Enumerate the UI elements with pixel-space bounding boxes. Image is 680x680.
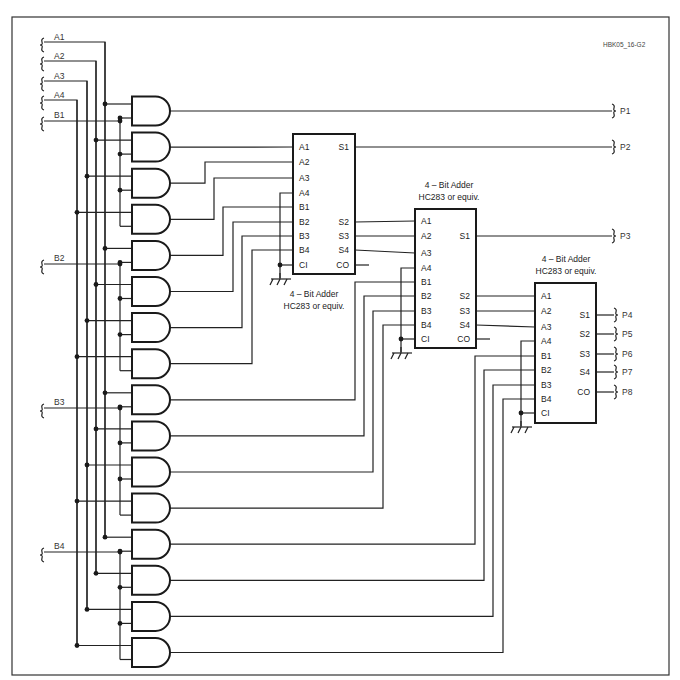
junction-dot	[118, 296, 123, 301]
input-label-b3: B3	[54, 397, 65, 407]
adder-2-pin-s2: S2	[460, 291, 471, 301]
input-label-b2: B2	[54, 253, 65, 263]
adder-2-pin-s4: S4	[460, 320, 471, 330]
junction-dot	[75, 643, 80, 648]
input-label-b1: B1	[54, 110, 65, 120]
and-gate-11	[132, 458, 170, 487]
adder-3-pin-co: CO	[577, 387, 590, 397]
wire	[170, 178, 293, 219]
ground-icon	[405, 353, 408, 359]
wire	[44, 61, 96, 573]
junction-dot	[85, 318, 90, 323]
junction-dot	[85, 607, 90, 612]
adder-1-part: HC283 or equiv.	[284, 301, 345, 311]
ground-icon	[511, 427, 514, 433]
connector-brace-icon	[612, 140, 616, 154]
connector-brace-icon	[614, 385, 618, 399]
adder-1-pin-s4: S4	[339, 245, 350, 255]
adder-1-pin-s2: S2	[339, 217, 350, 227]
output-label-p6: P6	[622, 349, 633, 359]
ground-icon	[391, 353, 394, 359]
connector-brace-icon	[40, 77, 44, 91]
and-gate-4	[132, 205, 170, 234]
ground-icon	[518, 427, 521, 433]
adder-3-part: HC283 or equiv.	[536, 266, 597, 276]
adder-2-pin-b1: B1	[421, 277, 432, 287]
wire	[170, 250, 293, 364]
ground-icon	[270, 279, 273, 285]
junction-dot	[118, 550, 123, 555]
connector-brace-icon	[40, 548, 44, 562]
adder-2-pin-s3: S3	[460, 306, 471, 316]
adder-1-pin-s3: S3	[339, 231, 350, 241]
output-label-p7: P7	[622, 367, 633, 377]
junction-dot	[103, 246, 108, 251]
junction-dot	[118, 332, 123, 337]
input-label-a4: A4	[54, 90, 65, 100]
output-label-p5: P5	[622, 329, 633, 339]
junction-dot	[85, 463, 90, 468]
schematic: HBK05_16-G2 A1A2A3A4B1B2B3B4A1A2A3A4B1B2…	[0, 0, 680, 680]
and-gate-10	[132, 421, 170, 450]
multiplier-circuit-diagram: HBK05_16-G2 A1A2A3A4B1B2B3B4A1A2A3A4B1B2…	[0, 0, 680, 680]
connector-brace-icon	[614, 308, 618, 322]
and-gate-3	[132, 169, 170, 198]
junction-dot	[103, 390, 108, 395]
input-label-a2: A2	[54, 51, 65, 61]
adder-2-pin-a1: A1	[421, 216, 432, 226]
adder-2-part: HC283 or equiv.	[419, 192, 480, 202]
adder-2-pin-b4: B4	[421, 320, 432, 330]
and-gate-9	[132, 385, 170, 414]
junction-dot	[118, 406, 123, 411]
output-label-p8: P8	[622, 387, 633, 397]
junction-dot	[94, 138, 99, 143]
input-label-a1: A1	[54, 32, 65, 42]
adder-1-pin-a2: A2	[299, 157, 310, 167]
adder-1-pin-a4: A4	[299, 188, 310, 198]
junction-dot	[75, 354, 80, 359]
junction-dot	[118, 152, 123, 157]
connector-brace-icon	[40, 404, 44, 418]
adder-3-pin-s1: S1	[580, 310, 591, 320]
adder-2-pin-b3: B3	[421, 306, 432, 316]
and-gate-7	[132, 313, 170, 342]
junction-dot	[118, 262, 123, 267]
adder-3-pin-s3: S3	[580, 349, 591, 359]
junction-dot	[118, 441, 123, 446]
figure-id: HBK05_16-G2	[603, 41, 646, 49]
connector-brace-icon	[40, 117, 44, 131]
ground-icon	[398, 353, 401, 359]
and-gate-8	[132, 349, 170, 378]
junction-dot	[94, 282, 99, 287]
wire	[44, 100, 77, 646]
adder-3-pin-a1: A1	[541, 291, 552, 301]
adder-1-pin-a1: A1	[299, 142, 310, 152]
junction-dot	[399, 337, 404, 342]
wire	[170, 325, 415, 508]
wire	[476, 325, 535, 327]
ground-icon	[525, 427, 528, 433]
wire	[170, 296, 415, 436]
junction-dot	[519, 411, 524, 416]
adder-1-pin-ci: CI	[299, 260, 308, 270]
adder-2-pin-a3: A3	[421, 248, 432, 258]
adder-1-pin-b2: B2	[299, 217, 310, 227]
connector-brace-icon	[40, 260, 44, 274]
wire	[170, 162, 293, 183]
adder-2-pin-a4: A4	[421, 263, 432, 273]
junction-dot	[75, 210, 80, 215]
input-label-a3: A3	[54, 71, 65, 81]
input-label-b4: B4	[54, 541, 65, 551]
output-label-p3: P3	[620, 231, 631, 241]
junction-dot	[103, 535, 108, 540]
adder-3-pin-b2: B2	[541, 365, 552, 375]
connector-brace-icon	[614, 347, 618, 361]
junction-dot	[118, 621, 123, 626]
and-gate-5	[132, 241, 170, 270]
junction-dot	[118, 119, 123, 124]
and-gate-6	[132, 277, 170, 306]
adder-1-pin-b4: B4	[299, 245, 310, 255]
junction-dot	[118, 585, 123, 590]
adder-3-pin-a2: A2	[541, 306, 552, 316]
and-gate-16	[132, 638, 170, 667]
